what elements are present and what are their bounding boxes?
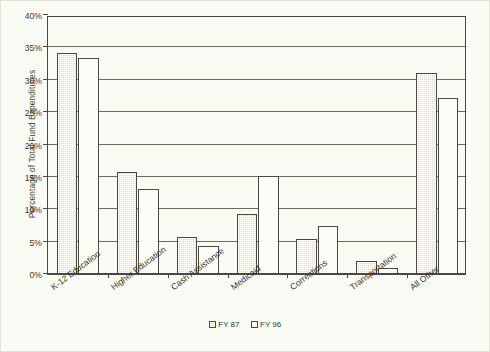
x-axis-tick-mark xyxy=(347,274,348,278)
bar-fy96 xyxy=(78,58,99,274)
y-axis-tick-mark xyxy=(43,208,48,209)
plot-area xyxy=(47,16,466,275)
y-axis-tick-mark xyxy=(43,46,48,47)
y-axis-tick-label: 40% xyxy=(0,11,42,21)
legend-item[interactable]: FY 87 xyxy=(209,320,240,329)
y-axis-tick-mark xyxy=(43,176,48,177)
bar-fy87 xyxy=(57,53,78,274)
y-axis-tick-mark xyxy=(43,14,48,15)
y-axis-tick-label: 15% xyxy=(0,173,42,183)
y-axis-tick-mark xyxy=(43,241,48,242)
y-axis-tick-mark xyxy=(43,111,48,112)
y-axis-tick-label: 5% xyxy=(0,238,42,248)
plot-inner xyxy=(48,17,465,274)
x-axis-tick-mark xyxy=(228,274,229,278)
y-axis-tick-label: 35% xyxy=(0,43,42,53)
gridline xyxy=(48,144,465,145)
y-axis-tick-mark xyxy=(43,144,48,145)
empty-square-icon xyxy=(251,321,258,328)
bar-fy96 xyxy=(258,176,279,274)
x-axis-tick-mark xyxy=(407,274,408,278)
y-axis-tick-label: 0% xyxy=(0,270,42,280)
x-axis-tick-mark xyxy=(168,274,169,278)
bar-fy87 xyxy=(117,172,138,274)
y-axis-tick-mark xyxy=(43,79,48,80)
y-axis-tick-label: 20% xyxy=(0,141,42,151)
bar-fy87 xyxy=(416,73,437,274)
legend-item[interactable]: FY 96 xyxy=(251,320,282,329)
y-axis-tick-label: 10% xyxy=(0,205,42,215)
x-axis-tick-mark xyxy=(287,274,288,278)
gridline xyxy=(48,111,465,112)
legend-label: FY 96 xyxy=(260,320,281,329)
bar-fy96 xyxy=(438,98,459,274)
chart-figure: Percentage of Total Fund Expenditures 0%… xyxy=(0,0,490,352)
gridline xyxy=(48,208,465,209)
legend-label: FY 87 xyxy=(218,320,239,329)
hatched-square-icon xyxy=(209,321,216,328)
x-axis-tick-mark xyxy=(108,274,109,278)
chart-legend: FY 87FY 96 xyxy=(0,320,490,329)
y-axis-tick-label: 30% xyxy=(0,76,42,86)
y-axis-tick-label: 25% xyxy=(0,108,42,118)
gridline xyxy=(48,79,465,80)
gridline xyxy=(48,46,465,47)
gridline xyxy=(48,176,465,177)
